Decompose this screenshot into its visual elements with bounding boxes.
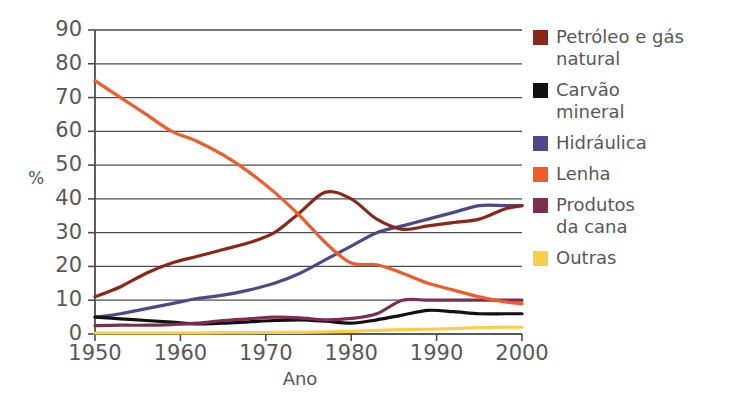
series-line-petr-leo-e-g-s-natural	[95, 192, 522, 297]
legend-label-carvao-mineral: Carvão mineral	[556, 79, 624, 123]
legend-item-lenha[interactable]: Lenha	[533, 163, 733, 185]
legend-label-petroleo-e-gas-natural: Petróleo e gás natural	[556, 26, 684, 70]
series-line-outras	[95, 327, 522, 333]
series-lines	[95, 81, 522, 333]
x-axis	[95, 334, 522, 341]
x-tick-label-2000: 2000	[477, 343, 567, 364]
legend-label-outras: Outras	[556, 247, 616, 269]
legend-item-outras[interactable]: Outras	[533, 247, 733, 269]
chart-legend: Petróleo e gás naturalCarvão mineralHidr…	[533, 26, 733, 278]
x-tick-label-1950: 1950	[50, 343, 140, 364]
x-tick-label-1960: 1960	[135, 343, 225, 364]
legend-swatch-icon-outras	[533, 251, 548, 266]
legend-item-produtos-da-cana[interactable]: Produtos da cana	[533, 194, 733, 238]
gridlines	[95, 30, 522, 334]
legend-swatch-icon-carvao-mineral	[533, 83, 548, 98]
x-tick-label-1990: 1990	[392, 343, 482, 364]
energy-matrix-line-chart: % 0102030405060708090 195019601970198019…	[0, 0, 736, 405]
x-tick-label-1980: 1980	[306, 343, 396, 364]
x-tick-label-1970: 1970	[221, 343, 311, 364]
y-axis	[88, 30, 95, 334]
legend-swatch-icon-lenha	[533, 167, 548, 182]
legend-swatch-icon-hidraulica	[533, 136, 548, 151]
legend-item-hidraulica[interactable]: Hidráulica	[533, 132, 733, 154]
legend-item-carvao-mineral[interactable]: Carvão mineral	[533, 79, 733, 123]
legend-swatch-icon-produtos-da-cana	[533, 198, 548, 213]
legend-label-lenha: Lenha	[556, 163, 611, 185]
legend-swatch-icon-petroleo-e-gas-natural	[533, 30, 548, 45]
legend-label-produtos-da-cana: Produtos da cana	[556, 194, 635, 238]
legend-label-hidraulica: Hidráulica	[556, 132, 647, 154]
x-axis-title: Ano	[0, 368, 600, 389]
legend-item-petroleo-e-gas-natural[interactable]: Petróleo e gás natural	[533, 26, 733, 70]
